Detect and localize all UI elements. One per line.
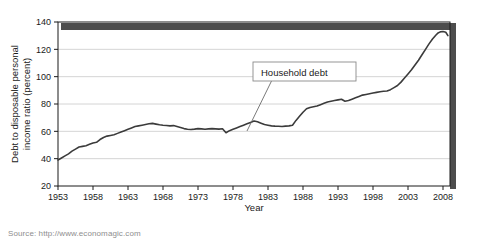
y-axis-title-line1: Debt to disposable personal [9,45,20,163]
x-tick-label-1973: 1973 [188,192,208,202]
x-tick-label-1958: 1958 [83,192,103,202]
y-tick-label-40: 40 [41,154,51,164]
chart-figure: 20406080100120140 1953195819631968197319… [0,0,482,239]
y-tick-label-20: 20 [41,181,51,191]
x-tick-label-2003: 2003 [398,192,418,202]
y-tick-label-80: 80 [41,99,51,109]
x-tick-label-1978: 1978 [223,192,243,202]
x-axis: 1953195819631968197319781983198819931998… [48,186,453,202]
y-axis-title-line2: income ratio (percent) [21,58,32,150]
x-tick-label-1968: 1968 [153,192,173,202]
x-tick-label-1953: 1953 [48,192,68,202]
plot-top-shadow-band [61,23,452,30]
source-note: Source: http://www.economagic.com [8,229,141,238]
y-tick-label-140: 140 [36,17,51,27]
y-tick-label-60: 60 [41,127,51,137]
y-axis: 20406080100120140 [36,17,58,191]
x-tick-label-2008: 2008 [433,192,453,202]
plot-right-shadow-band [450,23,456,189]
x-axis-title: Year [244,202,263,213]
plot-interior [58,30,450,186]
x-tick-label-1993: 1993 [328,192,348,202]
annotation-label: Household debt [261,67,328,78]
x-tick-label-1983: 1983 [258,192,278,202]
x-tick-label-1963: 1963 [118,192,138,202]
household-debt-line-chart: 20406080100120140 1953195819631968197319… [0,0,482,239]
y-tick-label-100: 100 [36,72,51,82]
x-tick-label-1988: 1988 [293,192,313,202]
y-tick-label-120: 120 [36,45,51,55]
x-tick-label-1998: 1998 [363,192,383,202]
